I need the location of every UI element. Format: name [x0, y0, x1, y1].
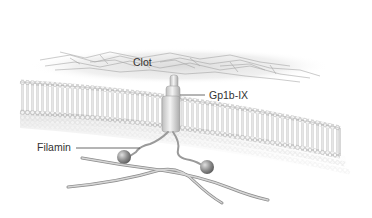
diagram-canvas	[0, 0, 372, 218]
filamin-ball-left	[117, 150, 131, 164]
clot-mesh	[30, 48, 330, 84]
membrane-diagram: Clot Gp1b-IX Filamin	[0, 0, 372, 218]
filamin-label: Filamin	[37, 142, 71, 153]
actin-filaments	[68, 158, 268, 203]
clot-label: Clot	[133, 57, 152, 68]
receptor-label: Gp1b-IX	[209, 90, 248, 101]
filamin-ball-right	[200, 160, 214, 174]
